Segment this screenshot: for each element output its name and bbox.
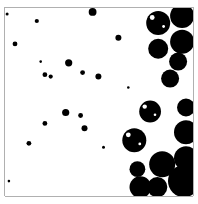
circle-point xyxy=(62,109,69,116)
circle-point xyxy=(65,59,72,66)
circle-point xyxy=(89,8,97,16)
circle-highlight xyxy=(143,104,147,108)
circle-point xyxy=(49,75,53,79)
circle-point xyxy=(27,141,32,146)
circle-point xyxy=(122,128,146,152)
circle-point xyxy=(115,35,121,41)
circle-point xyxy=(35,19,39,23)
circle-highlight xyxy=(138,143,141,146)
circle-point xyxy=(102,146,105,149)
circle-highlight xyxy=(150,15,155,20)
circle-point xyxy=(177,99,195,117)
circle-point xyxy=(39,60,42,63)
circle-point xyxy=(13,42,18,47)
circle-highlight xyxy=(162,25,165,28)
circle-point xyxy=(169,53,187,71)
circle-point xyxy=(161,70,179,88)
circle-point xyxy=(148,39,168,59)
circle-point xyxy=(80,70,85,75)
circle-point xyxy=(43,121,48,126)
circle-point xyxy=(8,180,11,183)
circle-highlight xyxy=(154,114,157,117)
circle-point xyxy=(82,125,88,131)
circle-highlight xyxy=(126,132,131,137)
circle-point xyxy=(146,11,170,35)
circle-point xyxy=(127,86,130,89)
circle-point xyxy=(147,177,167,197)
circle-point xyxy=(78,113,83,118)
circle-point xyxy=(95,74,101,80)
circle-field xyxy=(0,0,198,204)
circle-point xyxy=(43,72,48,77)
circle-point xyxy=(170,30,194,54)
circle-point xyxy=(130,161,146,177)
circle-point xyxy=(139,101,161,123)
circle-point xyxy=(6,13,9,16)
